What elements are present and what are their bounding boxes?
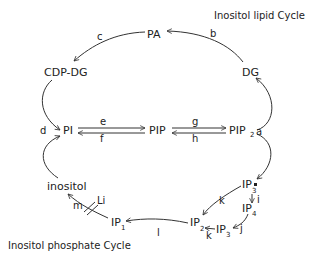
svg-text:IP: IP bbox=[111, 216, 121, 229]
svg-text:3: 3 bbox=[252, 187, 256, 195]
node-PIP2: PIP 2 bbox=[229, 124, 254, 139]
svg-text:2: 2 bbox=[250, 131, 254, 139]
edge-label-a: a bbox=[256, 126, 262, 137]
node-IP4: IP 4 bbox=[242, 202, 257, 218]
node-PIP: PIP bbox=[149, 124, 166, 137]
svg-text:IP: IP bbox=[242, 178, 252, 191]
edge-label-c: c bbox=[97, 31, 103, 42]
edge-label-e: e bbox=[100, 116, 106, 127]
edge-label-l: l bbox=[157, 227, 160, 238]
svg-text:4: 4 bbox=[252, 210, 257, 218]
node-DG: DG bbox=[242, 66, 259, 79]
arrow-b bbox=[167, 31, 243, 62]
inositol-cycle-diagram: Inositol lipid Cycle Inositol phosphate … bbox=[0, 0, 323, 262]
node-PA: PA bbox=[147, 28, 161, 41]
arrow-l bbox=[126, 219, 188, 223]
edge-label-h: h bbox=[192, 133, 198, 144]
svg-text:1: 1 bbox=[121, 224, 125, 232]
arrow-a-up bbox=[256, 78, 272, 130]
svg-text:IP: IP bbox=[242, 202, 252, 215]
edge-label-f: f bbox=[100, 133, 104, 144]
arrow-c bbox=[74, 32, 145, 61]
svg-text:IP: IP bbox=[190, 216, 200, 229]
svg-text:PIP: PIP bbox=[229, 124, 246, 137]
arrow-inositol-to-PI bbox=[43, 136, 60, 178]
node-CDP-DG: CDP-DG bbox=[44, 66, 88, 79]
edge-label-g: g bbox=[192, 116, 198, 127]
node-inositol: inositol bbox=[47, 180, 87, 193]
edge-label-m: m bbox=[73, 200, 83, 211]
node-IP1: IP 1 bbox=[111, 216, 125, 232]
node-PI: PI bbox=[63, 124, 73, 137]
arrow-k2 bbox=[205, 228, 215, 229]
inhibitor-label-Li: Li bbox=[97, 195, 105, 206]
edge-label-k2: k bbox=[206, 230, 212, 241]
phosphate-cycle-title: Inositol phosphate Cycle bbox=[8, 240, 131, 251]
arrow-a-down bbox=[257, 134, 271, 179]
node-IP3-star: IP 3 bbox=[242, 178, 257, 195]
svg-text:IP: IP bbox=[216, 223, 226, 236]
edge-label-k1: k bbox=[219, 195, 225, 206]
edge-label-j: j bbox=[239, 223, 243, 234]
svg-text:2: 2 bbox=[200, 225, 204, 233]
node-IP3: IP 3 bbox=[216, 223, 230, 239]
arrow-d bbox=[42, 80, 60, 130]
lithium-block-icon bbox=[84, 202, 98, 215]
edge-label-i: i bbox=[257, 194, 260, 205]
edge-label-d: d bbox=[40, 125, 46, 136]
svg-text:3: 3 bbox=[226, 231, 230, 239]
edge-label-b: b bbox=[210, 28, 216, 39]
lipid-cycle-title: Inositol lipid Cycle bbox=[214, 10, 305, 21]
node-IP2: IP 2 bbox=[190, 216, 204, 233]
